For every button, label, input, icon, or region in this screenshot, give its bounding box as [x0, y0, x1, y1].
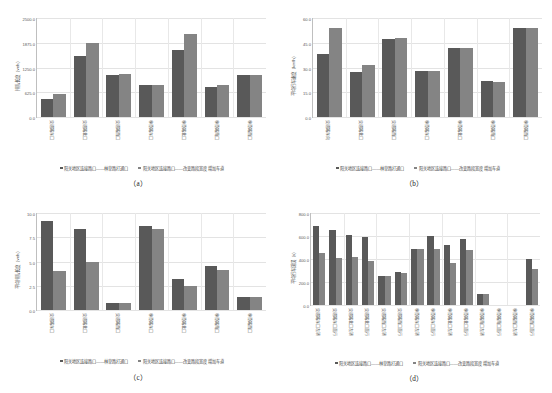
bar-series-2: [250, 297, 262, 310]
bar-series-2: [460, 48, 472, 117]
legend-item: 阳关地区连接路口——改变路段宽度 增加车道: [138, 358, 224, 364]
bar-series-2: [152, 229, 164, 310]
bar-group: [70, 213, 103, 310]
bar-group: [409, 213, 425, 305]
x-label-cell: 林草路北口: [167, 118, 200, 163]
bar-series-2: [428, 71, 440, 117]
x-label-cell: 林草路北口左转: [441, 306, 457, 358]
bar-group: [360, 213, 376, 305]
x-tick-label: 交通路西口: [391, 120, 397, 140]
y-tick-label: 600.0: [299, 235, 311, 240]
bar-group: [442, 213, 458, 305]
y-tick-label: 30.0: [303, 66, 313, 71]
legend-item: 阳关地区连接路口——林草路打通口: [60, 165, 128, 171]
x-label-cell: 林草路西口左转: [507, 306, 523, 358]
bar-group: [168, 18, 201, 117]
x-axis-labels-c: 交通路东口交通路北口交通路西口林草路东口林草路北口林草路南口林草路西口: [36, 311, 266, 356]
bar-group: [393, 213, 409, 305]
bar-group: [475, 213, 491, 305]
legend-item: 阳关地区连接路口——林草路打通口: [335, 360, 403, 366]
bar-series-container-c: [37, 213, 266, 310]
bar-group: [135, 213, 168, 310]
bar-series-container-b: [313, 18, 542, 117]
bar-group: [37, 18, 70, 117]
x-tick-label: 交通路西口: [115, 313, 121, 333]
x-tick-label: 交通路北口: [82, 120, 88, 140]
legend-swatch-icon: [336, 167, 339, 170]
x-label-cell: 交通路东向: [312, 118, 345, 163]
y-axis-title-c: 平均排队长度（veh）: [14, 238, 20, 300]
x-label-cell: 交通路东口: [36, 311, 69, 356]
x-label-cell: 交通路北口: [69, 118, 102, 163]
x-tick-label: 林草路西口: [523, 120, 529, 140]
legend-swatch-icon: [335, 362, 338, 365]
bar-series-2: [493, 82, 505, 117]
bar-series-2: [466, 250, 472, 305]
y-tick-label: 2.5: [29, 284, 37, 289]
bar-series-2: [401, 273, 407, 305]
legend-a: 阳关地区连接路口——林草路打通口阳关地区连接路口——改变路段宽度 增加车道: [18, 164, 266, 172]
bar-group: [344, 213, 360, 305]
legend-item: 阳关地区连接路口——改变路段宽度 增加车道: [138, 165, 224, 171]
y-tick-label: 1875.0: [22, 41, 37, 46]
bar-series-1: [317, 54, 329, 117]
x-label-cell: 交通路北口左转: [343, 306, 359, 358]
bar-series-2: [483, 294, 489, 306]
x-tick-label: 交通路北口: [82, 313, 88, 333]
bar-series-2: [532, 269, 538, 305]
x-tick-label: 林草路北口: [181, 120, 187, 140]
y-tick-label: 2500.0: [22, 17, 37, 22]
x-label-cell: 交通路北口: [345, 118, 378, 163]
x-tick-label: 交通路东口: [49, 120, 55, 140]
x-tick-label: 林草路北口: [181, 313, 187, 333]
bar-series-2: [53, 271, 65, 310]
bar-series-2: [53, 94, 65, 117]
legend-b: 阳关地区连接路口——林草路打通口阳关地区连接路口——改变路段宽度 增加车道: [294, 164, 542, 172]
y-tick-label: 45.0: [303, 41, 313, 46]
x-tick-label: 林草路东口: [148, 313, 154, 333]
bar-series-2: [86, 43, 98, 117]
x-label-cell: 林草路北口: [167, 311, 200, 356]
x-tick-label: 林草路北口左转: [447, 308, 453, 336]
bar-series-2: [352, 257, 358, 305]
bar-series-2: [526, 28, 538, 117]
bar-series-1: [172, 50, 184, 117]
bar-series-2: [119, 303, 131, 310]
x-label-cell: 林草路南口直行: [491, 306, 507, 358]
bar-series-1: [106, 75, 118, 117]
bar-series-container-a: [37, 18, 266, 117]
bar-series-1: [41, 99, 53, 117]
bar-group: [524, 213, 540, 305]
x-label-cell: 交通路北口: [69, 311, 102, 356]
plot-area-a: 2500.0 1875.0 1250.0 625.0 0.0: [36, 18, 266, 118]
bar-series-1: [481, 81, 493, 117]
bar-group: [201, 213, 234, 310]
x-label-cell: 林草路西口直行: [523, 306, 539, 358]
bar-series-1: [172, 279, 184, 310]
bar-series-1: [350, 72, 362, 117]
x-label-cell: 交通路西口: [378, 118, 411, 163]
bar-group: [376, 213, 392, 305]
bar-series-1: [74, 56, 86, 117]
legend-label: 阳关地区连接路口——林草路打通口: [64, 165, 128, 171]
y-tick-label: 10.0: [27, 212, 37, 217]
x-axis-labels-a: 交通路东口交通路北口交通路西口林草路东口林草路北口林草路南口林草路西口: [36, 118, 266, 163]
legend-label: 阳关地区连接路口——林草路打通口: [339, 360, 403, 366]
x-tick-label: 林草路北口: [457, 120, 463, 140]
x-tick-label: 交通路西口直行: [397, 308, 403, 336]
x-label-cell: 交通路西口直行: [392, 306, 408, 358]
bar-series-2: [434, 249, 440, 305]
bar-series-1: [237, 75, 249, 117]
bar-series-2: [152, 85, 164, 117]
legend-swatch-icon: [138, 167, 141, 170]
x-label-cell: 林草路南口: [200, 118, 233, 163]
y-tick-label: 1250.0: [22, 66, 37, 71]
x-tick-label: 交通路北口: [358, 120, 364, 140]
bar-series-1: [237, 297, 249, 310]
bar-group: [507, 213, 523, 305]
bar-group: [327, 213, 343, 305]
y-tick-label: 625.0: [25, 91, 37, 96]
x-label-cell: 林草路东口: [135, 118, 168, 163]
bar-group: [37, 213, 70, 310]
y-axis-title-b: 平均行车速度（km/h）: [290, 42, 296, 108]
